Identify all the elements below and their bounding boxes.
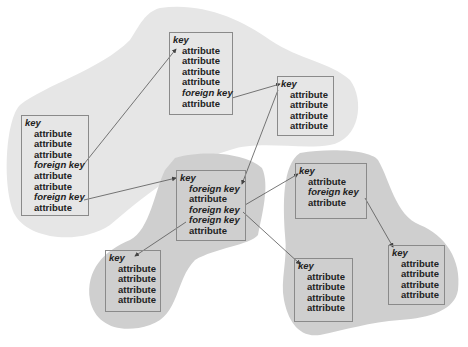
attribute-field: attribute — [25, 171, 85, 182]
attribute-field: attribute — [173, 99, 229, 110]
key-field: key — [298, 261, 349, 272]
entity-box-a: key attribute attribute attribute attrib… — [169, 32, 233, 115]
foreign-key-field: foreign key — [173, 88, 229, 99]
key-field: key — [180, 173, 242, 184]
key-field: key — [25, 118, 85, 129]
entity-box-d: key foreign key attribute foreign key fo… — [176, 170, 246, 241]
attribute-field: attribute — [298, 303, 349, 314]
attribute-field: attribute — [299, 198, 363, 209]
attribute-field: attribute — [392, 290, 441, 301]
attribute-field: attribute — [281, 121, 330, 132]
key-field: key — [281, 79, 330, 90]
entity-box-b: key attribute attribute attribute attrib… — [277, 76, 334, 136]
entity-box-e: key attribute attribute attribute attrib… — [105, 250, 161, 312]
key-field: key — [109, 253, 157, 264]
entity-box-c: key attribute attribute attribute foreig… — [21, 115, 89, 216]
entity-box-f: key attribute foreign key attribute — [295, 163, 367, 219]
attribute-field: attribute — [109, 295, 157, 306]
key-field: key — [392, 248, 441, 259]
entity-box-h: key attribute attribute attribute attrib… — [388, 245, 445, 305]
key-field: key — [299, 166, 363, 177]
attribute-field: attribute — [25, 203, 85, 214]
entity-box-g: key attribute attribute attribute attrib… — [294, 258, 353, 322]
key-field: key — [173, 35, 229, 46]
attribute-field: attribute — [180, 226, 242, 237]
